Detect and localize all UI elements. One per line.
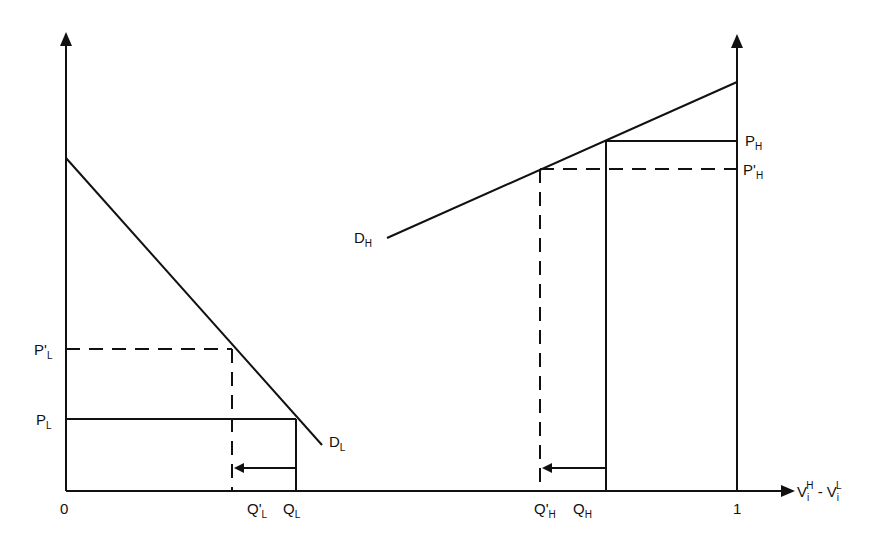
- x-axis-arrow-icon: [781, 485, 795, 497]
- price-label-ph: PH: [745, 132, 762, 152]
- left-panel: [66, 158, 322, 491]
- price-label-ph-prime: P'H: [743, 161, 763, 181]
- labels: 0 1 ViH - ViL P'L PL DL Q'L QL DH PH P'H…: [34, 132, 842, 520]
- quantity-label-ql: QL: [283, 500, 301, 520]
- axes: [60, 32, 795, 497]
- quantity-label-qh: QH: [573, 500, 592, 520]
- price-label-pl-prime: P'L: [34, 341, 53, 361]
- price-label-pl: PL: [36, 411, 52, 431]
- demand-label-high: DH: [354, 229, 372, 249]
- demand-curve-high: [387, 82, 737, 238]
- right-y-axis-arrow-icon: [731, 34, 743, 48]
- demand-label-low: DL: [329, 433, 346, 453]
- x-tick-1-label: 1: [733, 500, 741, 517]
- demand-curve-low: [66, 158, 322, 445]
- right-panel: [387, 82, 737, 491]
- quantity-label-qh-prime: Q'H: [534, 500, 556, 520]
- origin-label: 0: [60, 500, 68, 517]
- left-y-axis-arrow-icon: [60, 32, 72, 46]
- quantity-label-ql-prime: Q'L: [247, 500, 268, 520]
- x-axis-label: ViH - ViL: [797, 480, 842, 503]
- demand-diagram: 0 1 ViH - ViL P'L PL DL Q'L QL DH PH P'H…: [0, 0, 894, 541]
